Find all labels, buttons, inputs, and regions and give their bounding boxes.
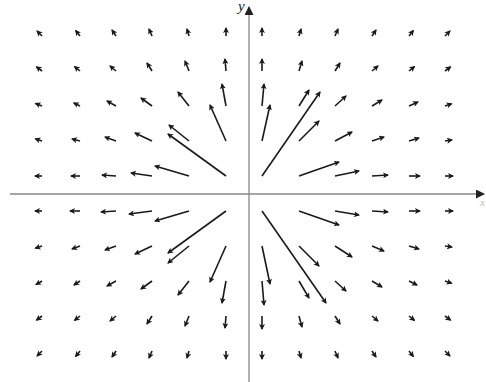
vector-arrow — [335, 29, 338, 36]
vector-arrow — [262, 92, 320, 176]
vector-arrow — [76, 351, 80, 356]
vector-arrow — [335, 211, 359, 215]
vector-arrow — [372, 66, 378, 71]
vector-arrow — [445, 104, 452, 106]
vector-arrow — [409, 351, 413, 356]
vector-arrow — [168, 246, 189, 263]
vector-arrow — [372, 100, 382, 106]
vector-arrow — [372, 351, 376, 357]
vector-arrow — [74, 281, 80, 285]
vector-arrow — [149, 351, 152, 358]
vector-arrow — [36, 67, 42, 71]
vector-arrow — [112, 30, 116, 36]
vector-arrow — [131, 173, 152, 176]
vector-arrow — [299, 246, 319, 266]
vector-arrow — [299, 351, 301, 358]
vector-arrow — [445, 31, 450, 36]
vector-arrow — [105, 137, 116, 141]
vector-arrow — [210, 246, 226, 282]
vector-arrow — [335, 96, 346, 106]
vector-arrow — [299, 316, 302, 327]
vector-arrow — [168, 211, 226, 253]
vector-arrow — [141, 281, 152, 289]
vector-arrow — [335, 171, 359, 176]
vector-arrow — [409, 316, 414, 320]
vector-arrow — [262, 105, 270, 141]
vector-arrow — [372, 281, 382, 287]
vector-arrow — [262, 246, 270, 284]
vector-arrow — [102, 175, 116, 176]
vector-arrow — [409, 67, 414, 71]
vector-arrow — [335, 246, 352, 257]
vector-arrow — [112, 351, 116, 357]
vector-arrow — [141, 98, 152, 106]
vector-arrow — [335, 316, 340, 324]
vector-arrow — [299, 281, 309, 298]
vector-arrow — [445, 351, 450, 356]
vector-arrow — [299, 29, 301, 36]
vector-arrow — [225, 59, 226, 71]
vector-arrow — [445, 246, 452, 247]
vector-arrow — [187, 29, 189, 36]
vector-arrow — [299, 90, 309, 106]
vector-arrow — [409, 102, 418, 106]
vector-arrow — [372, 30, 376, 36]
vector-arrow — [155, 211, 189, 221]
vector-arrow — [37, 351, 42, 356]
vector-arrow — [147, 316, 152, 324]
vector-arrow — [101, 211, 116, 212]
vector-arrow — [262, 281, 264, 305]
vector-arrow — [37, 31, 42, 36]
vector-arrow — [372, 137, 384, 141]
vector-arrow — [409, 246, 419, 249]
vector-arrow — [72, 246, 80, 249]
vector-arrow — [222, 84, 226, 106]
vector-arrow — [178, 281, 189, 295]
vector-arrow — [72, 139, 80, 141]
vector-arrow — [185, 61, 189, 71]
vector-arrow — [107, 101, 116, 106]
axes — [10, 7, 484, 382]
vector-arrow — [155, 166, 189, 176]
vector-arrow — [107, 281, 116, 286]
vector-arrow — [372, 211, 388, 212]
vector-arrow — [445, 281, 452, 283]
vector-arrow — [105, 246, 116, 250]
vector-arrow — [335, 351, 338, 358]
vector-arrow — [299, 61, 302, 71]
vector-arrow — [299, 121, 319, 141]
vector-arrow — [299, 211, 339, 225]
vector-arrow — [335, 281, 346, 291]
vector-arrow — [110, 316, 116, 321]
vector-arrow — [147, 63, 152, 71]
vector-arrow — [187, 351, 189, 358]
vector-arrow — [409, 138, 419, 141]
vector-arrow — [409, 31, 413, 36]
vector-arrow — [445, 67, 451, 71]
x-axis-label: x — [480, 196, 485, 208]
vector-arrow — [75, 67, 80, 71]
vector-arrow — [74, 103, 80, 106]
vector-arrow — [76, 31, 80, 36]
vector-arrow — [225, 316, 226, 328]
vector-arrow — [169, 125, 189, 141]
vector-arrow — [409, 281, 417, 285]
vector-arrow — [168, 134, 226, 176]
vector-arrow — [335, 63, 340, 71]
vector-field-plot — [0, 0, 486, 382]
vector-arrow — [222, 281, 226, 303]
vector-arrow — [445, 140, 452, 141]
vector-arrow — [299, 162, 339, 176]
vector-arrow — [185, 316, 189, 326]
vector-arrow — [149, 29, 152, 36]
vector-arrow — [35, 139, 42, 141]
y-axis-label: y — [238, 0, 245, 15]
vector-arrow — [35, 246, 42, 248]
vector-arrow — [262, 84, 264, 106]
vector-arrow — [129, 211, 152, 214]
vector-arrow — [210, 105, 226, 141]
vector-arrow — [135, 246, 152, 254]
vector-arrow — [36, 316, 42, 320]
vector-arrow — [36, 281, 42, 285]
vector-arrow — [372, 246, 384, 251]
